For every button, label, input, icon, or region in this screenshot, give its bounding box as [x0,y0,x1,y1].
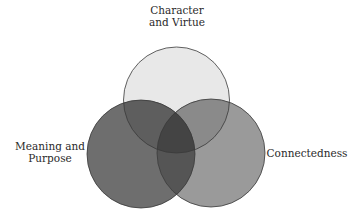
label-line: Character [136,4,218,16]
label-line: Meaning and [10,140,90,152]
label-connectedness: Connectedness [266,147,348,159]
label-line: Connectedness [266,147,348,159]
label-line: and Virtue [136,16,218,28]
label-line: Purpose [10,152,90,164]
venn-diagram [0,0,359,221]
label-character-virtue: Character and Virtue [136,4,218,28]
label-meaning-purpose: Meaning and Purpose [10,140,90,164]
